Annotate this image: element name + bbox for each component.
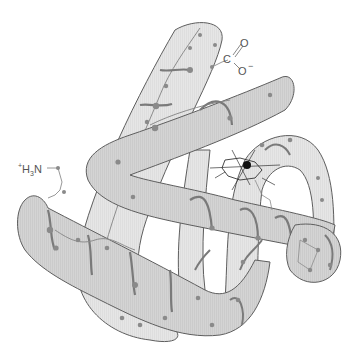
helix-h-cap <box>287 224 341 282</box>
n-terminus-tail <box>47 166 66 198</box>
n-terminus-label: +H3N <box>18 162 42 177</box>
c-terminus-double-oxygen-label: O <box>240 38 249 49</box>
iron-atom-icon <box>243 161 251 169</box>
c-terminus-carbon-label: C <box>223 54 231 65</box>
c-terminus-single-oxygen-label: O <box>238 66 247 77</box>
protein-ribbon-svg <box>0 0 357 354</box>
c-terminus-charge-label: − <box>248 62 253 71</box>
protein-structure-diagram: +H3N C O O − <box>0 0 357 354</box>
